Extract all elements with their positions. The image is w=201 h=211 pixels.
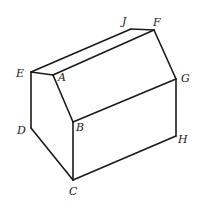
edge-e-j — [31, 29, 131, 72]
vertex-label-b: B — [75, 121, 84, 134]
edge-a-f — [53, 30, 154, 75]
edge-c-d — [31, 128, 73, 180]
vertex-label-j: J — [120, 15, 127, 28]
vertex-label-d: D — [16, 124, 26, 137]
vertex-label-f: F — [152, 16, 161, 29]
edge-c-h — [73, 136, 176, 180]
vertex-label-g: G — [181, 72, 190, 85]
edge-e-a — [31, 72, 53, 75]
vertex-label-h: H — [177, 133, 188, 146]
prism-diagram: E A J F G D B H C — [0, 0, 201, 211]
edge-j-f — [131, 29, 154, 30]
edge-f-g — [154, 30, 176, 79]
vertex-label-c: C — [69, 185, 78, 198]
vertex-label-a: A — [57, 71, 66, 84]
edge-b-g — [73, 79, 176, 122]
vertex-label-e: E — [15, 67, 24, 80]
